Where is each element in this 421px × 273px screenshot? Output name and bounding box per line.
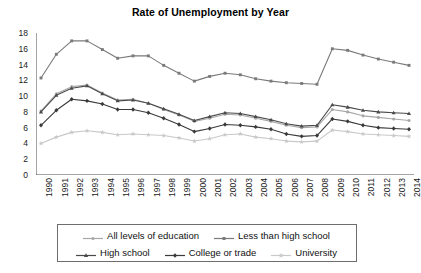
- chart-legend: All levels of educationLess than high sc…: [57, 224, 357, 262]
- x-tick-label: 1999: [182, 178, 192, 197]
- x-tick-label: 1993: [90, 178, 100, 197]
- legend-swatch: [270, 247, 292, 258]
- x-tick-label: 1997: [152, 178, 162, 197]
- legend-marker-icon: [164, 250, 186, 261]
- x-tick-label: 2011: [366, 178, 376, 196]
- x-tick-label: 2002: [228, 178, 238, 197]
- chart-title: Rate of Unemployment by Year: [0, 6, 421, 18]
- x-tick-label: 2013: [397, 178, 407, 197]
- legend-item-high-school[interactable]: High school: [75, 247, 152, 258]
- legend-label: Less than high school: [238, 230, 330, 241]
- legend-swatch: [75, 247, 97, 258]
- x-tick-label: 2007: [305, 178, 315, 197]
- axis-lines: [36, 33, 414, 175]
- x-tick-label: 2000: [198, 178, 208, 197]
- chart-plot-svg: [36, 33, 414, 175]
- legend-item-less-than-high-school[interactable]: Less than high school: [213, 230, 332, 241]
- legend-marker-icon: [75, 250, 97, 261]
- legend-label: High school: [100, 247, 150, 258]
- y-tick-label: 4: [23, 138, 28, 148]
- y-tick-label: 18: [19, 28, 28, 38]
- x-tick-label: 2008: [320, 178, 330, 197]
- legend-marker-icon: [270, 250, 292, 261]
- legend-item-college-or-trade[interactable]: College or trade: [164, 247, 259, 258]
- y-tick-label: 10: [19, 91, 28, 101]
- x-tick-label: 1994: [106, 178, 116, 197]
- y-tick-label: 16: [19, 44, 28, 54]
- y-tick-label: 14: [19, 60, 28, 70]
- x-tick-label: 1992: [75, 178, 85, 197]
- y-tick-label: 0: [23, 170, 28, 180]
- x-tick-label: 2012: [382, 178, 392, 197]
- series-university: [39, 127, 412, 145]
- x-tick-label: 2010: [351, 178, 361, 197]
- legend-item-university[interactable]: University: [270, 247, 339, 258]
- y-axis: 024681012141618: [0, 33, 32, 175]
- legend-row: All levels of educationLess than high sc…: [58, 227, 356, 244]
- legend-swatch: [164, 247, 186, 258]
- x-tick-label: 2003: [244, 178, 254, 197]
- x-tick-label: 1990: [44, 178, 54, 197]
- series-high-school: [39, 84, 411, 128]
- x-tick-label: 2014: [412, 178, 421, 197]
- x-tick-label: 2004: [259, 178, 269, 197]
- x-tick-label: 1995: [121, 178, 131, 197]
- legend-label: College or trade: [189, 247, 257, 258]
- y-tick-label: 2: [23, 154, 28, 164]
- legend-marker-icon: [213, 233, 235, 244]
- x-tick-label: 2009: [336, 178, 346, 197]
- x-tick-label: 2006: [290, 178, 300, 197]
- legend-swatch: [82, 230, 104, 241]
- y-tick-label: 8: [23, 107, 28, 117]
- legend-item-all-levels-of-education[interactable]: All levels of education: [82, 230, 201, 241]
- plot-area: [36, 33, 414, 175]
- x-axis: 1990199119921993199419951996199719981999…: [36, 178, 414, 222]
- y-tick-label: 12: [19, 75, 28, 85]
- x-tick-label: 1991: [60, 178, 70, 197]
- legend-marker-icon: [82, 233, 104, 244]
- x-tick-label: 1998: [167, 178, 177, 197]
- legend-label: University: [295, 247, 337, 258]
- x-tick-label: 2005: [274, 178, 284, 197]
- series-less-than-high-school: [40, 39, 411, 85]
- legend-swatch: [213, 230, 235, 241]
- x-tick-label: 1996: [136, 178, 146, 197]
- y-tick-label: 6: [23, 123, 28, 133]
- chart-container: Rate of Unemployment by Year 02468101214…: [0, 0, 421, 273]
- legend-row: High schoolCollege or tradeUniversity: [58, 244, 356, 261]
- x-tick-label: 2001: [213, 178, 223, 197]
- legend-label: All levels of education: [107, 230, 199, 241]
